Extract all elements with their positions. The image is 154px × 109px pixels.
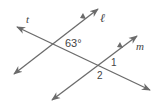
label-angle-63: 63° [65, 38, 82, 49]
label-t: t [26, 14, 29, 25]
label-angle-1: 1 [111, 58, 117, 68]
label-m: m [136, 41, 144, 52]
parallel-mark-m [117, 42, 123, 48]
label-l: ℓ [100, 12, 105, 24]
label-angle-2: 2 [97, 71, 103, 81]
parallel-lines-diagram [0, 0, 154, 109]
parallel-mark-l [80, 13, 86, 19]
transversal-t [17, 27, 150, 90]
